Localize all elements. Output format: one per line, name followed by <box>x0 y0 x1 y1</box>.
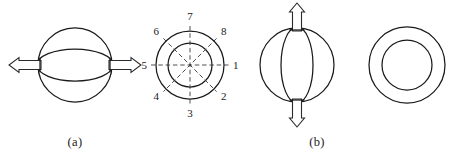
panel-b-drawing: 1 2 3 4 5 6 7 8 <box>126 0 256 160</box>
spoke-label-6: 6 <box>154 25 160 37</box>
figure-root: (a) 1 2 3 4 5 6 7 <box>0 0 465 160</box>
panel-a-left-arrow <box>9 58 41 73</box>
spoke-label-4: 4 <box>154 90 160 102</box>
panel-d-outer-circle <box>369 27 445 103</box>
spoke-label-2: 2 <box>221 90 227 102</box>
panel-a-outer-circle <box>38 28 112 102</box>
spoke-label-7: 7 <box>187 10 193 22</box>
panel-b-spokes <box>151 26 229 104</box>
panel-c-vertical-ellipse <box>281 27 313 103</box>
panel-d: (d) <box>350 0 465 160</box>
panel-c-down-arrow <box>290 99 305 127</box>
left-arrow-icon <box>9 58 41 73</box>
panel-c-up-arrow <box>290 3 305 31</box>
up-arrow-icon <box>290 3 305 31</box>
panel-c-drawing <box>245 0 355 160</box>
spoke-label-1: 1 <box>233 59 239 71</box>
spoke-label-5: 5 <box>142 59 148 71</box>
panel-c: (c) <box>245 0 355 160</box>
spoke-label-8: 8 <box>221 25 227 37</box>
panel-d-inner-circle <box>382 40 432 90</box>
panel-d-drawing <box>350 0 465 160</box>
panel-a-horizontal-ellipse <box>37 49 113 81</box>
panel-b: 1 2 3 4 5 6 7 8 (b) <box>126 0 256 160</box>
panel-c-outer-circle <box>260 28 334 102</box>
down-arrow-icon <box>290 99 305 127</box>
spoke-label-3: 3 <box>187 107 193 119</box>
